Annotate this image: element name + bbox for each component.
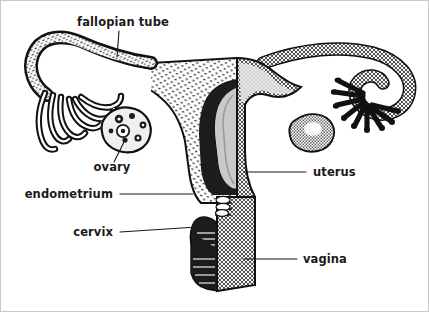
label-uterus: uterus	[313, 165, 356, 179]
label-endometrium: endometrium	[25, 187, 113, 201]
label-ovary: ovary	[94, 160, 131, 174]
leader-cervix	[120, 227, 197, 232]
label-fallopian-tube: fallopian tube	[77, 15, 169, 29]
right-fimbriae	[335, 81, 397, 129]
anatomical-diagram: fallopian tube ovary endometrium cervix …	[0, 0, 429, 312]
label-vagina: vagina	[303, 252, 347, 266]
left-ovary	[102, 107, 151, 152]
left-fallopian-tube	[31, 37, 151, 95]
cervix	[190, 217, 217, 291]
label-cervix: cervix	[73, 225, 113, 239]
right-ovary	[289, 114, 334, 152]
